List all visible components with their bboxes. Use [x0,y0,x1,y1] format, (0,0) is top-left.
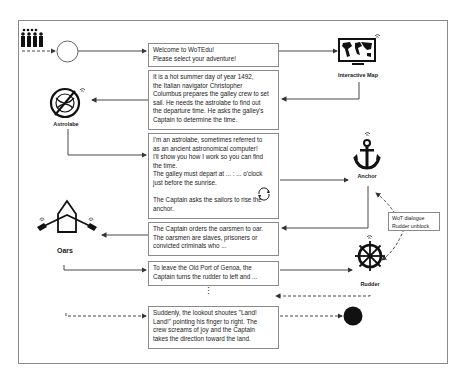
map-label: Interactive Map [333,72,383,78]
oars-boat-icon [32,198,100,238]
step-astrolabe-talk: I'm an astrolabe, sometimes referred to … [148,133,279,219]
step-rudder-turn: To leave the Old Port of Genoa, the Capt… [148,261,279,286]
oars-label: Oars [52,247,78,254]
rudder-label: Rudder [352,281,388,287]
step-welcome: Welcome to WoTEdu! Please select your ad… [148,43,279,67]
end-node-icon [343,306,363,326]
step-oarsmen: The Captain orders the oarsmen to oar. T… [148,222,279,256]
start-node-icon [56,40,79,63]
astrolabe-label: Astrolabe [46,121,86,127]
step-intro: It is a hot summer day of year 1492, the… [148,70,279,130]
users-group-icon [20,28,44,48]
astrolabe-icon [48,86,88,120]
wot-dialogue-box: WoT dialogue Rudder unblock [388,212,440,231]
interactive-map-icon [338,34,382,68]
cycle-icon [256,186,272,202]
ellipsis-marker: ⋮ [204,286,213,296]
anchor-label: Anchor [352,173,382,179]
step-land: Suddenly, the lookout shoutes "Land! Lan… [148,306,279,349]
anchor-icon [352,132,382,172]
